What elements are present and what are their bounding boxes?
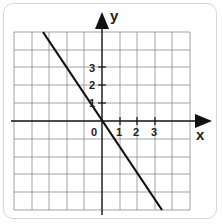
- x-axis-label: x: [196, 126, 205, 143]
- y-tick-3: 3: [89, 62, 95, 74]
- ticks: [98, 67, 155, 125]
- axes: [11, 22, 198, 215]
- origin-label: 0: [91, 126, 97, 138]
- x-tick-1: 1: [116, 126, 122, 138]
- x-tick-3: 3: [151, 126, 157, 138]
- x-tick-2: 2: [133, 126, 139, 138]
- y-tick-1: 1: [89, 97, 95, 109]
- y-tick-2: 2: [89, 79, 95, 91]
- y-axis-arrow-icon: [95, 12, 109, 29]
- y-axis-label: y: [110, 7, 119, 24]
- coordinate-plane: y x 0 1 2 3 1 2 3: [0, 0, 222, 224]
